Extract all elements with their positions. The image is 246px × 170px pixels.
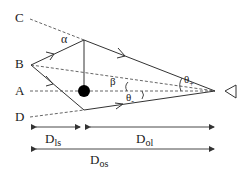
arc-theta-plus (180, 78, 182, 91)
label-dos: Dos (90, 152, 108, 169)
arrow-icon (115, 103, 123, 109)
observer-eye-icon (225, 85, 236, 98)
label-theta-plus: θ+ (184, 73, 194, 88)
label-dls: Dls (45, 131, 61, 148)
label-beta: β (110, 75, 116, 87)
lower-ray (31, 65, 215, 110)
dashed-sightlines (30, 19, 215, 117)
lens-mass (78, 85, 90, 97)
sightline-d (30, 110, 84, 117)
label-c: C (15, 10, 24, 25)
sightline-c (30, 19, 84, 40)
label-alpha: α (61, 32, 68, 46)
angle-arcs (126, 78, 182, 99)
lensing-diagram: C B A D α β θ+ θ- Dls Dol Dos (0, 0, 246, 170)
label-b: B (15, 56, 24, 71)
label-a: A (15, 83, 25, 98)
label-dol: Dol (136, 131, 153, 148)
arc-theta-minus (142, 91, 144, 99)
distance-arrows (36, 127, 214, 149)
label-d: D (15, 109, 24, 124)
arc-beta (126, 82, 128, 91)
